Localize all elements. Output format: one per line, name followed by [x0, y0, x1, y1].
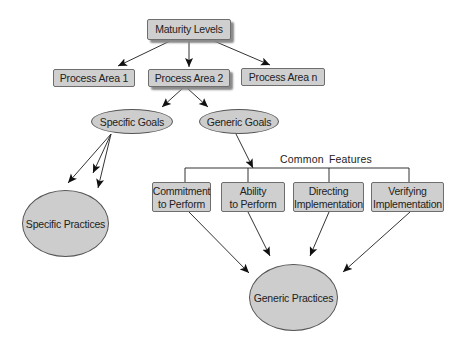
feature-line1: Verifying	[388, 185, 426, 198]
arrow-cf4-gp	[343, 212, 410, 272]
process-area-2-node: Process Area 2	[148, 69, 230, 87]
directing-implementation-node: Directing Implementation	[293, 182, 364, 212]
arrow-cf3-gp	[310, 212, 329, 256]
maturity-levels-node: Maturity Levels	[147, 19, 231, 40]
generic-goals-node: Generic Goals	[199, 109, 279, 134]
arrow-gg-cf	[236, 134, 253, 168]
specific-practices-node: Specific Practices	[22, 190, 109, 257]
arrow-sg-sp-2	[93, 134, 111, 173]
common-features-bracket	[185, 168, 409, 182]
connector-lines	[0, 0, 465, 347]
feature-line2: to Perform	[229, 198, 276, 211]
feature-line1: Directing	[309, 185, 349, 198]
feature-line2: Implementation	[373, 198, 442, 211]
arrow-sg-sp-1	[68, 134, 111, 183]
arrow-ml-pa1	[118, 41, 170, 66]
feature-line1: Ability	[240, 185, 267, 198]
feature-line1: Commitment	[153, 185, 211, 198]
verifying-implementation-node: Verifying Implementation	[371, 182, 444, 212]
commitment-to-perform-node: Commitment to Perform	[152, 182, 211, 212]
process-area-1-node: Process Area 1	[53, 69, 135, 87]
arrow-pa2-sg	[162, 88, 183, 107]
arrow-cf1-gp	[189, 212, 249, 273]
feature-line2: Implementation	[294, 198, 363, 211]
arrow-ml-pan	[214, 41, 270, 65]
common-features-label: Common Features	[280, 153, 372, 165]
process-area-n-node: Process Area n	[241, 68, 325, 86]
specific-goals-node: Specific Goals	[91, 109, 173, 134]
ability-to-perform-node: Ability to Perform	[221, 182, 285, 212]
generic-practices-node: Generic Practices	[249, 264, 338, 331]
feature-line2: to Perform	[158, 198, 205, 211]
arrow-cf2-gp	[248, 212, 270, 256]
arrow-pa2-gg	[187, 88, 208, 107]
